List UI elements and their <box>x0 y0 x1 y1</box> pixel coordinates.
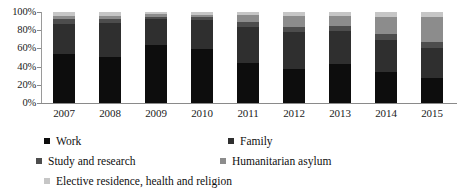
stacked-bar-chart: 0%20%40%60%80%100% 200720082009201020112… <box>0 0 460 195</box>
legend-swatch-icon <box>228 138 234 144</box>
legend-label: Humanitarian asylum <box>232 154 331 168</box>
bar-segment[interactable] <box>283 69 305 103</box>
x-tick-label: 2011 <box>225 106 271 120</box>
legend-item[interactable]: Humanitarian asylum <box>220 154 331 168</box>
bar-group <box>409 12 455 103</box>
y-axis: 0%20%40%60%80%100% <box>0 0 36 128</box>
bar-segment[interactable] <box>283 32 305 69</box>
x-axis-line <box>37 103 457 104</box>
legend-label: Family <box>240 134 273 148</box>
bar-segment[interactable] <box>237 27 259 63</box>
bar-segment[interactable] <box>375 40 397 72</box>
bar-segment[interactable] <box>145 12 167 14</box>
legend-label: Work <box>56 134 81 148</box>
x-tick-label: 2012 <box>271 106 317 120</box>
stacked-bar[interactable] <box>53 12 75 103</box>
bar-segment[interactable] <box>283 12 305 16</box>
bar-segment[interactable] <box>145 19 167 44</box>
bar-segment[interactable] <box>191 20 213 49</box>
legend-swatch-icon <box>220 158 226 164</box>
bar-segment[interactable] <box>283 16 305 27</box>
bar-group <box>225 12 271 103</box>
bar-group <box>317 12 363 103</box>
legend-item[interactable]: Study and research <box>36 154 136 168</box>
y-tick-mark <box>37 12 41 13</box>
bar-segment[interactable] <box>329 26 351 31</box>
bar-segment[interactable] <box>99 12 121 16</box>
bar-segment[interactable] <box>421 42 443 48</box>
x-tick-label: 2013 <box>317 106 363 120</box>
bar-segment[interactable] <box>375 17 397 33</box>
stacked-bar[interactable] <box>421 12 443 103</box>
stacked-bar[interactable] <box>329 12 351 103</box>
y-tick-label: 0% <box>0 98 36 108</box>
stacked-bar[interactable] <box>375 12 397 103</box>
bar-segment[interactable] <box>237 12 259 15</box>
bar-segment[interactable] <box>421 78 443 103</box>
stacked-bar[interactable] <box>237 12 259 103</box>
bar-segment[interactable] <box>53 24 75 54</box>
stacked-bar[interactable] <box>99 12 121 103</box>
y-tick-mark <box>37 48 41 49</box>
x-tick-label: 2008 <box>87 106 133 120</box>
y-tick-mark <box>37 103 41 104</box>
bar-segment[interactable] <box>421 48 443 78</box>
x-tick-label: 2015 <box>409 106 455 120</box>
bar-segment[interactable] <box>237 22 259 27</box>
y-tick-label: 80% <box>0 25 36 35</box>
bar-segment[interactable] <box>53 19 75 24</box>
bar-group <box>133 12 179 103</box>
stacked-bar[interactable] <box>283 12 305 103</box>
bar-segment[interactable] <box>375 72 397 103</box>
y-tick-mark <box>37 67 41 68</box>
chart-legend: WorkFamilyStudy and researchHumanitarian… <box>0 130 460 195</box>
bars-container <box>41 12 455 103</box>
bar-group <box>87 12 133 103</box>
legend-item[interactable]: Work <box>44 134 81 148</box>
x-tick-label: 2009 <box>133 106 179 120</box>
bar-group <box>41 12 87 103</box>
legend-item[interactable]: Elective residence, health and religion <box>44 174 232 188</box>
x-tick-label: 2010 <box>179 106 225 120</box>
bar-segment[interactable] <box>99 16 121 20</box>
bar-segment[interactable] <box>375 34 397 40</box>
bar-segment[interactable] <box>329 64 351 103</box>
stacked-bar[interactable] <box>145 12 167 103</box>
legend-swatch-icon <box>36 158 42 164</box>
bar-segment[interactable] <box>421 17 443 42</box>
bar-segment[interactable] <box>99 23 121 57</box>
legend-label: Study and research <box>48 154 136 168</box>
bar-segment[interactable] <box>53 54 75 103</box>
bar-segment[interactable] <box>421 12 443 17</box>
bar-segment[interactable] <box>99 57 121 103</box>
bar-segment[interactable] <box>99 19 121 23</box>
bar-segment[interactable] <box>283 27 305 32</box>
bar-segment[interactable] <box>237 63 259 103</box>
legend-swatch-icon <box>44 138 50 144</box>
bar-segment[interactable] <box>53 12 75 16</box>
bar-segment[interactable] <box>329 31 351 64</box>
y-tick-label: 100% <box>0 7 36 17</box>
bar-segment[interactable] <box>329 16 351 26</box>
bar-segment[interactable] <box>53 16 75 20</box>
x-axis: 200720082009201020112012201320142015 <box>41 106 455 124</box>
bar-segment[interactable] <box>237 15 259 22</box>
y-tick-mark <box>37 30 41 31</box>
bar-segment[interactable] <box>191 17 213 20</box>
y-tick-label: 40% <box>0 62 36 72</box>
stacked-bar[interactable] <box>191 12 213 103</box>
bar-segment[interactable] <box>145 17 167 20</box>
bar-segment[interactable] <box>145 14 167 17</box>
bar-segment[interactable] <box>191 49 213 103</box>
bar-group <box>271 12 317 103</box>
bar-group <box>363 12 409 103</box>
bar-group <box>179 12 225 103</box>
y-tick-label: 60% <box>0 43 36 53</box>
bar-segment[interactable] <box>375 12 397 17</box>
legend-item[interactable]: Family <box>228 134 273 148</box>
bar-segment[interactable] <box>329 12 351 16</box>
bar-segment[interactable] <box>191 15 213 18</box>
bar-segment[interactable] <box>145 45 167 103</box>
bar-segment[interactable] <box>191 12 213 15</box>
y-tick-mark <box>37 85 41 86</box>
